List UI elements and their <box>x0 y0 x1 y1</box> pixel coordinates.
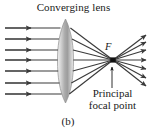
lens-glass <box>58 19 74 103</box>
diverging-ray-6 <box>113 60 146 78</box>
converging-rays <box>69 28 113 94</box>
converging-lens-figure: Converging lens F Principal focal point … <box>0 0 147 134</box>
ray-diagram-svg <box>0 0 147 134</box>
focal-point-marker <box>110 57 115 62</box>
converging-lens-shape <box>58 19 74 103</box>
incoming-rays <box>5 28 62 94</box>
diverging-rays <box>113 35 146 86</box>
principal-focal-point-label-line2: focal point <box>78 100 147 111</box>
figure-title: Converging lens <box>0 2 147 13</box>
converging-ray-5 <box>73 60 113 71</box>
focal-point-letter-label: F <box>105 42 111 53</box>
principal-focal-point-label-line1: Principal <box>78 88 147 99</box>
diverging-ray-1 <box>113 35 146 60</box>
panel-caption: (b) <box>44 116 92 127</box>
converging-ray-6 <box>71 60 113 83</box>
diverging-ray-7 <box>113 60 146 86</box>
